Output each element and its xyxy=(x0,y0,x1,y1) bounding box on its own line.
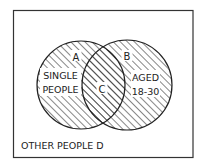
region-letter-a: A xyxy=(73,52,80,63)
set-a-label-line-1: SINGLE xyxy=(43,70,78,81)
set-a-label-line-2: PEOPLE xyxy=(42,84,78,95)
set-b-label-line-1: AGED xyxy=(132,72,159,83)
region-letter-b: B xyxy=(124,51,131,62)
venn-diagram: A B C SINGLE PEOPLE AGED 18-30 OTHER PEO… xyxy=(0,0,204,167)
universe-label: OTHER PEOPLE D xyxy=(21,140,104,151)
set-b-label-line-2: 18-30 xyxy=(132,86,160,97)
region-letter-c: C xyxy=(99,84,106,95)
